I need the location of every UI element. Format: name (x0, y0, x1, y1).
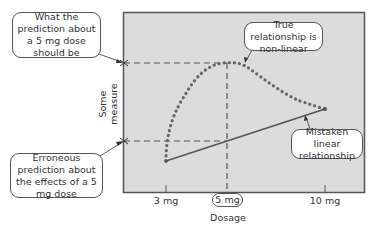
y-axis-label: Some measure (97, 74, 119, 134)
tick-label-3mg: 3 mg (150, 195, 182, 206)
callout-correct-prediction: What the prediction about a 5 mg dose sh… (12, 12, 101, 58)
linear-end-point (323, 107, 327, 111)
callout-erroneous-prediction: Erroneous prediction about the effects o… (10, 153, 103, 198)
linear-start-point (164, 159, 168, 163)
callout-true-relationship: True relationship is non-linear (244, 22, 323, 51)
tick-label-5mg-highlighted: 5 mg (212, 193, 243, 207)
arrow-erroneous-prediction (100, 141, 123, 156)
callout-mistaken-linear: Mistaken linear relationship (291, 129, 363, 159)
arrow-correct-prediction (99, 54, 123, 63)
tick-label-10mg: 10 mg (307, 195, 343, 206)
x-axis-label: Dosage (208, 212, 248, 223)
